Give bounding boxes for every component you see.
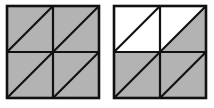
left-square-diagram <box>5 4 101 100</box>
left-fraction-square <box>5 4 101 100</box>
right-fraction-square <box>112 4 208 100</box>
right-square-diagram <box>112 4 208 100</box>
